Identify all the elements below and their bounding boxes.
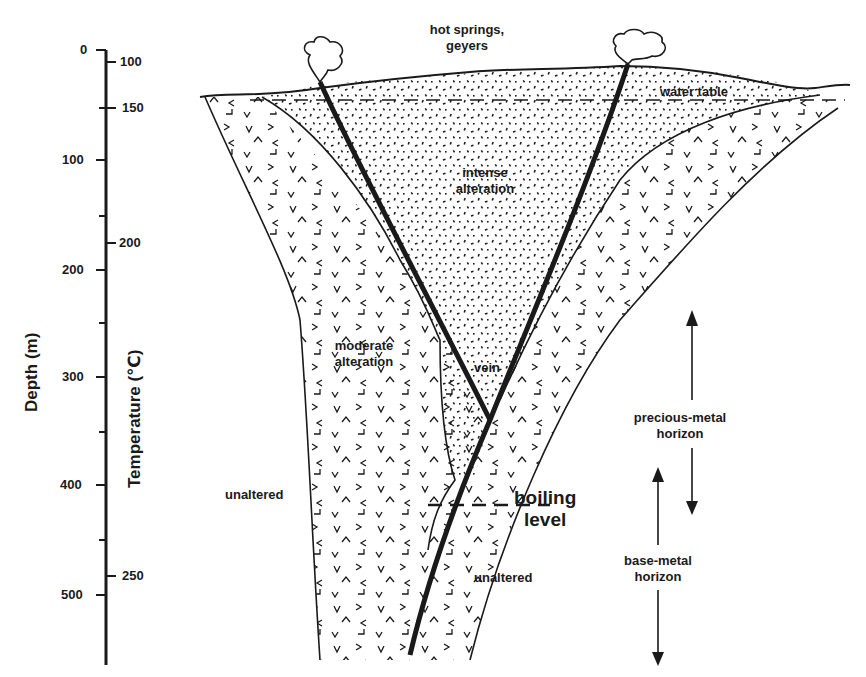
temperature-axis-title: Temperature (℃) [124,350,145,488]
moderate-alteration-label: moderate alteration [322,338,406,370]
depth-tick-label-500: 500 [61,588,83,602]
base-metal-horizon-label: base-metal horizon [605,553,711,585]
intense-alteration-label: intense alteration [430,165,540,197]
precious-metal-arrow-down-icon [686,448,698,515]
boiling-level-label-line2: level [514,509,576,531]
depth-tick-label-100: 100 [62,153,84,167]
intense-alteration-label-line2: alteration [430,181,540,197]
temp-tick-label-200: 200 [119,236,141,250]
temp-tick-label-150: 150 [122,101,144,115]
base-metal-arrow-up-icon [652,467,664,545]
base-metal-label-line1: base-metal [605,553,711,569]
hot-springs-label: hot springs, geyers [412,22,522,54]
hot-spring-plume-right-icon [614,30,666,65]
moderate-alteration-label-line1: moderate [322,338,406,354]
depth-axis-title: Depth (m) [22,333,42,412]
boiling-level-label: boiling level [514,487,576,531]
hot-springs-label-line1: hot springs, [412,22,522,38]
unaltered-left-label: unaltered [225,487,284,503]
depth-tick-label-0: 0 [80,43,87,57]
depth-tick-label-200: 200 [62,263,84,277]
unaltered-right-label: unaltered [474,570,533,586]
intense-alteration-label-line1: intense [430,165,540,181]
water-table-label: water table [660,84,728,100]
hot-springs-label-line2: geyers [412,38,522,54]
temp-tick-label-250: 250 [122,569,144,583]
moderate-alteration-label-line2: alteration [322,354,406,370]
boiling-level-label-line1: boiling [514,487,576,509]
precious-metal-label-line2: horizon [615,426,745,442]
precious-metal-arrow-up-icon [686,310,698,400]
base-metal-label-line2: horizon [605,569,711,585]
temp-tick-label-100: 100 [120,55,142,69]
depth-tick-label-400: 400 [60,478,82,492]
vein-label: vein [474,360,500,376]
hot-spring-plume-left-icon [304,37,342,82]
precious-metal-horizon-label: precious-metal horizon [615,410,745,442]
base-metal-arrow-down-icon [652,590,664,666]
depth-tick-label-300: 300 [62,370,84,384]
precious-metal-label-line1: precious-metal [615,410,745,426]
